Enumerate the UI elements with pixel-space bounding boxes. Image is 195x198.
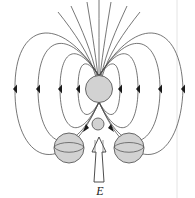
right-side-sphere-body [114,133,144,163]
center-sphere [86,76,113,103]
center-sphere-body [86,76,113,103]
dipole-field-diagram: E [0,0,195,198]
left-side-sphere-body [54,133,84,163]
figure-root: E [0,0,195,198]
left-side-sphere [54,133,84,163]
small-center-sphere [92,118,104,130]
right-side-sphere [114,133,144,163]
small-center-sphere-body [92,118,104,130]
e-field-label: E [95,184,104,198]
